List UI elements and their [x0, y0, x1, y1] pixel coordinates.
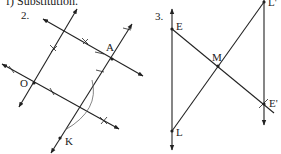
label-e-prime: E'	[269, 98, 278, 109]
label-e: E	[176, 21, 183, 32]
line-through-o	[2, 64, 119, 129]
label-a: A	[106, 42, 114, 53]
label-l: L	[176, 127, 183, 138]
figure-2-points	[32, 57, 113, 139]
segment-e-e-prime	[172, 29, 274, 113]
label-k: K	[65, 136, 73, 147]
point-l-prime	[262, 0, 265, 3]
point-e	[170, 27, 173, 30]
point-k	[58, 136, 61, 139]
point-o	[32, 81, 35, 84]
point-a	[110, 57, 113, 60]
point-l	[170, 129, 173, 132]
line-through-a	[43, 19, 143, 76]
construction-arc	[65, 80, 93, 130]
label-l-prime: L'	[268, 0, 277, 8]
point-m	[216, 64, 219, 67]
figure-3	[172, 0, 274, 150]
line-left-steep	[19, 9, 77, 107]
label-o: O	[20, 78, 28, 89]
geometry-figures	[0, 0, 281, 154]
line-right-steep	[51, 24, 132, 153]
label-m: M	[212, 52, 222, 63]
point-e-prime	[262, 102, 265, 105]
